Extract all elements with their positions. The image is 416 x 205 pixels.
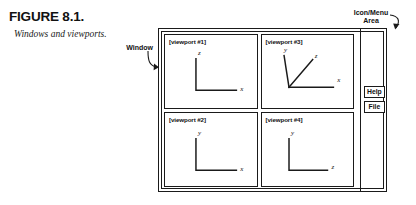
viewport-2[interactable]: [viewport #2] y x xyxy=(164,112,258,187)
viewport-4-axes: y z xyxy=(262,113,354,186)
figure-caption-block: FIGURE 8.1. Windows and viewports. xyxy=(9,10,149,40)
viewport-3-axis-label-y: y xyxy=(283,46,288,53)
viewport-2-axis-label-y: y xyxy=(197,129,202,136)
file-button[interactable]: File xyxy=(364,101,385,113)
viewport-1-axes: z x xyxy=(165,35,257,108)
viewport-3-axes: y z x xyxy=(262,35,354,108)
help-button[interactable]: Help xyxy=(364,86,385,98)
viewport-3-axis-label-x: x xyxy=(336,76,341,83)
icon-menu-annotation-arrow-icon xyxy=(389,14,407,34)
viewport-1[interactable]: [viewport #1] z x xyxy=(164,34,258,109)
viewport-4[interactable]: [viewport #4] y z xyxy=(261,112,355,187)
window-frame[interactable]: [viewport #1] z x [viewport #3] y z x [v… xyxy=(158,28,387,192)
viewport-grid: [viewport #1] z x [viewport #3] y z x [v… xyxy=(164,34,354,187)
viewport-4-axis-label-y: y xyxy=(289,129,294,136)
viewport-2-axis-label-x: x xyxy=(239,165,244,172)
icon-menu-annotation-label: Icon/Menu Area xyxy=(348,9,394,25)
viewport-2-axes: y x xyxy=(165,113,257,186)
menu-button-group: Help File xyxy=(364,86,385,113)
figure-number: FIGURE 8.1. xyxy=(9,10,149,24)
viewport-3[interactable]: [viewport #3] y z x xyxy=(261,34,355,109)
icon-menu-area[interactable]: Help File xyxy=(360,34,383,187)
viewport-4-axis-label-z: z xyxy=(330,163,334,170)
viewport-1-axis-label-x: x xyxy=(239,85,244,92)
figure-caption-text: Windows and viewports. xyxy=(14,29,149,39)
icon-menu-divider xyxy=(360,29,361,192)
viewport-3-axis-label-z: z xyxy=(313,52,317,59)
viewport-1-axis-label-z: z xyxy=(197,49,201,56)
